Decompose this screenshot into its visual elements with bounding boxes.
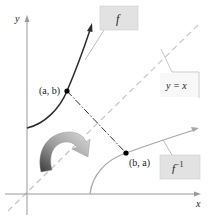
point-b-a-label: (b, a) xyxy=(129,157,150,169)
label-box-f: f xyxy=(85,6,138,60)
diagonal-line-y-equals-x xyxy=(8,25,198,211)
label-box-f-inverse: f−1 xyxy=(160,140,200,179)
x-axis-label: x xyxy=(195,198,201,209)
reflection-arrow-icon xyxy=(40,132,90,172)
label-y-equals-x: y = x xyxy=(165,80,187,91)
curve-f xyxy=(27,30,90,128)
y-axis-label: y xyxy=(14,13,20,24)
x-axis xyxy=(5,192,201,197)
point-a-b xyxy=(64,88,69,93)
point-b-a xyxy=(123,150,128,155)
curve-f-arrow-icon xyxy=(87,23,93,32)
y-axis xyxy=(25,15,30,215)
point-a-b-label: (a, b) xyxy=(39,85,60,97)
x-axis-arrow-icon xyxy=(194,192,201,197)
inverse-function-diagram: y x (a, b) (b, a) f y = x f−1 xyxy=(0,0,210,224)
y-axis-arrow-icon xyxy=(25,15,30,22)
